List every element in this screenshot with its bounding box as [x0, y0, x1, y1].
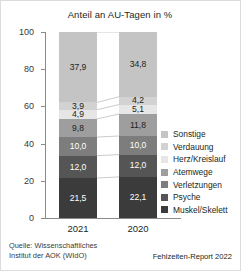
- legend-item-muskel-skelett[interactable]: Muskel/Skelett: [161, 204, 241, 217]
- bar-segment-verletzungen: 10,0: [119, 136, 157, 155]
- legend-label: Atemwege: [173, 167, 213, 177]
- legend-label: Psyche: [173, 192, 200, 202]
- connector-line: [97, 105, 119, 110]
- legend-label: Verletzungen: [173, 180, 222, 190]
- x-axis-line: [45, 218, 181, 219]
- x-axis-label-2020: 2020: [119, 223, 157, 234]
- connector-line: [97, 155, 119, 156]
- legend-label: Muskel/Skelett: [173, 205, 227, 215]
- source-note: Quelle: Wissenschaftliches Institut der …: [9, 241, 97, 261]
- legend-item-atemwege[interactable]: Atemwege: [161, 166, 241, 179]
- legend-label: Verdauung: [173, 142, 214, 152]
- y-tick-label-40: 40: [24, 139, 34, 149]
- segment-value-label: 10,0: [70, 142, 87, 151]
- source-line-1: Quelle: Wissenschaftliches: [9, 241, 97, 251]
- source-line-2: Institut der AOK (WIdO): [9, 251, 97, 261]
- y-tick-label-20: 20: [24, 176, 34, 186]
- bar-segment-psyche: 12,0: [119, 155, 157, 177]
- legend-item-verletzungen[interactable]: Verletzungen: [161, 178, 241, 191]
- segment-value-label: 12,0: [130, 161, 147, 170]
- legend-swatch-icon: [161, 181, 168, 188]
- bar-segment-muskel-skelett: 22,1: [119, 177, 157, 218]
- chart-figure: Anteil an AU-Tagen in % 020406080100 21,…: [0, 0, 241, 271]
- bar-segment-sonstige: 34,8: [119, 32, 157, 97]
- legend: SonstigeVerdauungHerz/KreislaufAtemwegeV…: [161, 128, 241, 216]
- y-tick-label-80: 80: [24, 64, 34, 74]
- plot-area: 020406080100 21,512,010,09,837,94,93,9 2…: [45, 32, 177, 219]
- segment-value-label: 4,2: [119, 96, 157, 106]
- bar-segment-atemwege: 11,8: [119, 114, 157, 136]
- segment-value-label: 22,1: [130, 193, 147, 202]
- bar-2021: 21,512,010,09,837,94,93,9: [59, 32, 97, 218]
- segment-value-label: 37,9: [70, 63, 87, 72]
- segment-value-label: 11,8: [130, 121, 146, 130]
- connector-line: [97, 114, 119, 119]
- legend-item-verdauung[interactable]: Verdauung: [161, 141, 241, 154]
- report-credit: Fehlzeiten-Report 2022: [153, 252, 232, 261]
- x-axis-label-2021: 2021: [59, 223, 97, 234]
- connector-line: [97, 177, 119, 178]
- legend-swatch-icon: [161, 194, 168, 201]
- y-tick-60: 60: [41, 106, 45, 107]
- segment-value-label: 12,0: [70, 163, 87, 172]
- bar-segment-sonstige: 37,9: [59, 32, 97, 102]
- y-tick-80: 80: [41, 69, 45, 70]
- legend-swatch-icon: [161, 206, 168, 213]
- y-tick-20: 20: [41, 181, 45, 182]
- segment-value-label: 9,8: [72, 124, 84, 133]
- segment-value-label: 5,1: [119, 104, 157, 114]
- legend-item-herz-kreislauf[interactable]: Herz/Kreislauf: [161, 153, 241, 166]
- segment-value-label: 3,9: [59, 101, 97, 111]
- y-tick-40: 40: [41, 144, 45, 145]
- chart-title: Anteil an AU-Tagen in %: [35, 9, 205, 20]
- bar-segment-psyche: 12,0: [59, 156, 97, 178]
- segment-value-label: 10,0: [130, 141, 147, 150]
- legend-swatch-icon: [161, 143, 168, 150]
- legend-item-psyche[interactable]: Psyche: [161, 191, 241, 204]
- bar-segment-verletzungen: 10,0: [59, 137, 97, 156]
- legend-item-sonstige[interactable]: Sonstige: [161, 128, 241, 141]
- legend-swatch-icon: [161, 169, 168, 176]
- segment-value-label: 34,8: [130, 60, 147, 69]
- bar-segment-atemwege: 9,8: [59, 119, 97, 137]
- y-tick-0: 0: [41, 218, 45, 219]
- y-tick-100: 100: [41, 32, 45, 33]
- connector-line: [97, 136, 119, 137]
- legend-swatch-icon: [161, 156, 168, 163]
- y-tick-label-0: 0: [29, 213, 34, 223]
- legend-label: Herz/Kreislauf: [173, 154, 226, 164]
- y-tick-label-100: 100: [19, 27, 34, 37]
- connector-line: [97, 97, 119, 103]
- y-tick-label-60: 60: [24, 101, 34, 111]
- segment-value-label: 21,5: [70, 194, 87, 203]
- bar-2020: 22,112,010,011,834,85,14,2: [119, 32, 157, 218]
- y-axis-line: [45, 32, 46, 219]
- legend-label: Sonstige: [173, 129, 206, 139]
- legend-swatch-icon: [161, 131, 168, 138]
- bar-segment-muskel-skelett: 21,5: [59, 178, 97, 218]
